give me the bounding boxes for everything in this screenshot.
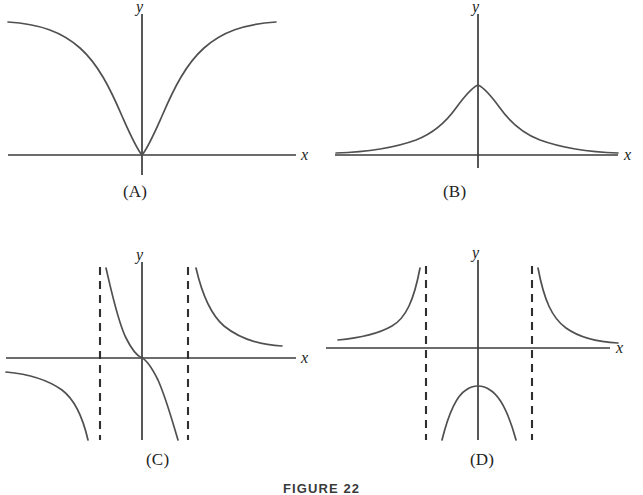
- y-axis-label: y: [134, 0, 144, 16]
- x-axis-label: x: [615, 339, 623, 356]
- x-axis-label: x: [623, 146, 631, 163]
- panel-b-plot: y x: [330, 0, 643, 210]
- curve-d-left-branch: [338, 268, 420, 340]
- x-axis-label: x: [300, 349, 308, 366]
- panel-d: y x: [320, 240, 643, 475]
- y-axis-label: y: [134, 246, 144, 264]
- panel-c-plot: y x: [0, 240, 330, 475]
- curve-c-left-branch: [6, 372, 88, 440]
- y-axis-label: y: [470, 0, 480, 16]
- curve-d-right-branch: [538, 268, 618, 343]
- panel-a: y x: [0, 0, 330, 210]
- panel-label-b: (B): [443, 182, 466, 202]
- panel-label-a: (A): [123, 182, 147, 202]
- y-axis-label: y: [470, 244, 480, 262]
- curve-c-right-branch: [196, 268, 282, 346]
- panel-b: y x: [330, 0, 643, 210]
- panel-a-plot: y x: [0, 0, 330, 210]
- figure-caption: FIGURE 22: [0, 481, 643, 495]
- panel-label-d: (D): [470, 450, 494, 470]
- curve-b: [336, 85, 618, 153]
- figure-container: y x (A) y x (B) y x (C): [0, 0, 643, 495]
- x-axis-label: x: [300, 146, 308, 163]
- panel-label-c: (C): [146, 450, 169, 470]
- panel-c: y x: [0, 240, 330, 475]
- panel-d-plot: y x: [320, 240, 643, 475]
- curve-d-middle-branch: [442, 386, 516, 440]
